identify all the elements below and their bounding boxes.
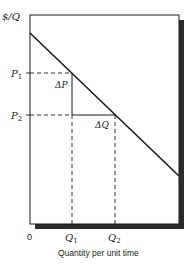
delta-q-label: ΔQ	[94, 120, 109, 130]
p1-label: P1	[10, 68, 22, 81]
p2-label: P2	[10, 110, 22, 123]
demand-chart: $/Q P1 P2 ΔP ΔQ 0 Q1 Q2 Quantity per uni…	[0, 0, 192, 265]
frame-shadow-bottom	[35, 224, 184, 229]
origin-label: 0	[27, 232, 32, 242]
delta-p-label: ΔP	[54, 80, 68, 90]
q1-label: Q1	[65, 232, 78, 245]
q2-label: Q2	[108, 232, 121, 245]
frame-shadow-right	[179, 20, 184, 229]
x-axis-label: Quantity per unit time	[58, 248, 139, 258]
y-axis-label: $/Q	[2, 11, 20, 22]
